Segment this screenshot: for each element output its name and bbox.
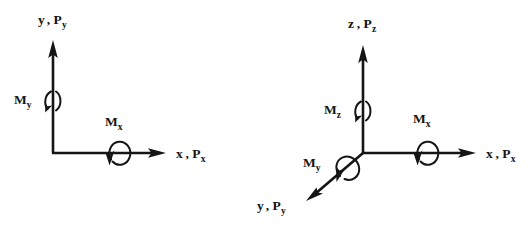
- moment-y-2d-arc-right: [56, 92, 60, 111]
- moment-y-2d-label: My: [14, 92, 32, 110]
- moment-z-3d-label: Mz: [324, 102, 342, 120]
- moment-x-2d: Mx: [105, 114, 130, 166]
- y-axis-2d: y,Py: [38, 12, 67, 153]
- moment-y-3d-label: My: [303, 155, 321, 173]
- coordinate-systems-figure: y,Py x,Px My Mx z,Pz: [0, 0, 530, 228]
- moment-y-3d: My: [303, 155, 359, 182]
- moment-x-3d-label: Mx: [413, 111, 431, 129]
- x-axis-3d-label: x,Px: [486, 146, 516, 164]
- moment-x-2d-label: Mx: [105, 114, 123, 132]
- y-axis-3d-label: y,Py: [257, 198, 286, 216]
- diagram-two-dimensional-axes: y,Py x,Px My Mx: [14, 12, 206, 166]
- z-axis-3d-label: z,Pz: [348, 16, 377, 34]
- x-axis-2d-label: x,Px: [176, 146, 206, 164]
- diagram-three-dimensional-axes: z,Pz x,Px y,Py Mz Mx: [257, 16, 516, 216]
- moment-x-3d: Mx: [413, 111, 438, 166]
- z-axis-3d: z,Pz: [348, 16, 377, 153]
- moment-z-3d-arc-right: [366, 102, 370, 121]
- y-axis-2d-label: y,Py: [38, 12, 67, 30]
